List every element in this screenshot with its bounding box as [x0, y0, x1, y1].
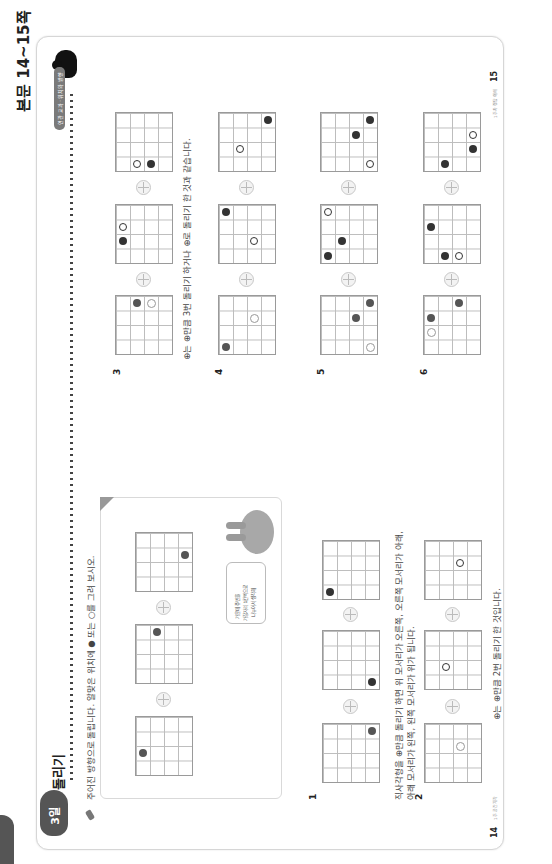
open-circle-icon: [250, 314, 259, 323]
open-circle-icon: [324, 208, 332, 216]
rotation-direction-icon: [445, 699, 460, 714]
rect-rotation-note-1: 직사각형을 ⊕만큼 돌리기 하면 위 모서리가 오른쪽, 오른쪽 모서리가 아래…: [392, 531, 404, 800]
rect-rotation-note-2: 아래 모서리가 왼쪽, 왼쪽 모서리가 위가 됩니다.: [404, 626, 416, 800]
three-quarter-note: ⊕는 ⊕만큼 3번 돌리기 하거나 ⊕로 돌리기 한 것과 같습니다.: [180, 138, 192, 360]
open-circle-icon: [366, 343, 375, 352]
bubble-line-1: 가운데 주변을: [235, 594, 241, 619]
subject-tag: 연관 교과 · 위치와 방향: [54, 67, 65, 130]
rabbit-mascot-icon: [240, 510, 274, 554]
answer-grid[interactable]: [322, 630, 380, 690]
open-circle-icon: [469, 131, 477, 139]
answer-grid[interactable]: [423, 112, 481, 172]
filled-circle-icon: [455, 299, 463, 307]
answer-grid[interactable]: [218, 295, 276, 355]
day-label: 3일: [46, 802, 62, 830]
filled-circle-icon: [153, 628, 161, 636]
section-title: 돌리기: [48, 754, 67, 790]
left-footer: 1주 공간지각: [492, 796, 498, 820]
filled-circle-icon: [427, 314, 435, 322]
answer-grid[interactable]: [320, 295, 378, 355]
rotation-direction-icon: [136, 180, 151, 195]
filled-circle-icon: [441, 252, 449, 260]
rotation-direction-icon: [156, 692, 171, 707]
open-circle-icon: [366, 160, 374, 168]
open-circle-icon: [456, 559, 464, 567]
answer-grid[interactable]: [115, 204, 173, 264]
filled-circle-icon: [119, 237, 127, 245]
answer-grid[interactable]: [320, 204, 378, 264]
answer-grid[interactable]: [218, 112, 276, 172]
open-circle-icon: [250, 237, 258, 245]
answer-grid[interactable]: [424, 630, 482, 690]
answer-grid[interactable]: [423, 295, 481, 355]
rotation-direction-icon: [341, 272, 356, 287]
answer-grid[interactable]: [135, 532, 193, 592]
filled-circle-icon: [133, 299, 141, 307]
rotation-direction-icon: [444, 180, 459, 195]
open-circle-icon: [133, 160, 141, 168]
filled-circle-icon: [469, 145, 477, 153]
speech-bubble: 가운데 주변을 가장자리 1칸씩으로 나누어서 생각해: [226, 562, 266, 624]
answer-grid[interactable]: [322, 723, 380, 783]
filled-circle-icon: [366, 116, 374, 124]
answer-grid[interactable]: [424, 723, 482, 783]
open-circle-icon: [427, 328, 436, 337]
answer-grid[interactable]: [423, 204, 481, 264]
filled-circle-icon: [181, 551, 189, 559]
open-circle-icon: [455, 252, 463, 260]
problem-number-1: 1: [308, 794, 318, 800]
page-fold-icon: [100, 497, 114, 511]
filled-circle-icon: [139, 749, 147, 757]
instruction-text: 주어진 방향으로 돌립니다. 알맞은 위치에 ● 또는 ○를 그려 보시오.: [84, 555, 96, 800]
filled-circle-icon: [326, 588, 334, 596]
filled-circle-icon: [427, 223, 435, 231]
answer-grid[interactable]: [135, 624, 193, 684]
filled-circle-icon: [324, 252, 332, 260]
dotted-divider: [70, 92, 73, 782]
answer-grid[interactable]: [135, 716, 193, 776]
filled-circle-icon: [352, 314, 360, 322]
problem-number-4: 4: [214, 369, 224, 375]
day-badge: 3일: [40, 790, 68, 836]
filled-circle-icon: [222, 208, 230, 216]
open-circle-icon: [119, 223, 127, 231]
filled-circle-icon: [352, 131, 360, 139]
rotation-direction-icon: [136, 272, 151, 287]
corner-decoration: [0, 815, 14, 864]
left-page-number: 14: [490, 827, 499, 838]
problem-number-5: 5: [316, 369, 326, 375]
right-footer: 1주차 정답 이해: [492, 89, 498, 118]
answer-grid[interactable]: [115, 112, 173, 172]
open-circle-icon: [456, 742, 465, 751]
rotation-direction-icon: [343, 607, 358, 622]
rotation-direction-icon: [444, 272, 459, 287]
answer-grid[interactable]: [322, 540, 380, 600]
rotation-direction-icon: [445, 607, 460, 622]
filled-circle-icon: [264, 116, 272, 124]
rotation-direction-icon: [156, 600, 171, 615]
filled-circle-icon: [222, 343, 230, 351]
half-turn-note: ⊕는 ⊕만큼 2번 돌리기 한 것입니다.: [490, 588, 502, 720]
rotation-direction-icon: [341, 180, 356, 195]
page-range-title: 본문 14~15쪽: [12, 10, 33, 112]
answer-grid[interactable]: [424, 540, 482, 600]
problem-number-3: 3: [112, 369, 122, 375]
filled-circle-icon: [441, 160, 449, 168]
rotation-direction-icon: [239, 180, 254, 195]
open-circle-icon: [147, 299, 156, 308]
problem-number-6: 6: [419, 369, 429, 375]
bubble-line-2: 가장자리 1칸씩으로: [243, 585, 249, 621]
answer-grid[interactable]: [115, 295, 173, 355]
filled-circle-icon: [338, 237, 346, 245]
filled-circle-icon: [368, 678, 376, 686]
answer-grid[interactable]: [320, 112, 378, 172]
open-circle-icon: [442, 663, 450, 671]
rotation-direction-icon: [239, 272, 254, 287]
rotation-direction-icon: [343, 699, 358, 714]
filled-circle-icon: [147, 160, 155, 168]
right-page-number: 15: [490, 71, 499, 82]
filled-circle-icon: [366, 299, 374, 307]
bubble-line-3: 나누어서 생각해: [251, 588, 257, 617]
answer-grid[interactable]: [218, 204, 276, 264]
open-circle-icon: [236, 145, 244, 153]
